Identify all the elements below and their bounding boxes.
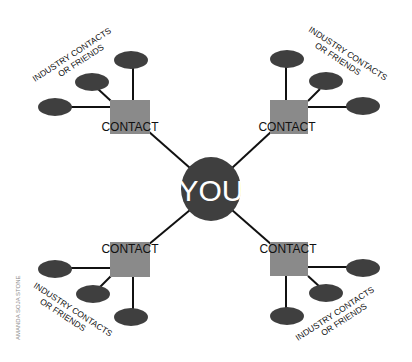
contact-label: CONTACT [259, 242, 317, 256]
friend-node [38, 260, 72, 278]
contact-label: CONTACT [258, 120, 316, 134]
friend-node [270, 307, 304, 325]
friend-node [346, 259, 380, 277]
friend-node [309, 284, 343, 302]
friend-node [270, 50, 304, 68]
credit-text: AMANDA SOJA STONE [15, 275, 21, 340]
friend-node [38, 98, 72, 116]
friend-node [309, 72, 343, 90]
contact-label: CONTACT [101, 120, 159, 134]
friend-node [114, 308, 148, 326]
network-diagram: CONTACT INDUSTRY CONTACTS OR FRIENDS CON… [0, 0, 412, 362]
contact-label: CONTACT [101, 242, 159, 256]
group-bottom-left: CONTACT INDUSTRY CONTACTS OR FRIENDS [26, 242, 159, 347]
group-top-right: CONTACT INDUSTRY CONTACTS OR FRIENDS [258, 24, 389, 134]
friend-node [75, 73, 109, 91]
friend-node [76, 285, 110, 303]
group-bottom-right: CONTACT INDUSTRY CONTACTS OR FRIENDS [259, 242, 381, 351]
friend-node [114, 51, 148, 69]
group-top-left: CONTACT INDUSTRY CONTACTS OR FRIENDS [31, 25, 160, 134]
friend-node [346, 97, 380, 115]
center-label: YOU [178, 174, 243, 207]
